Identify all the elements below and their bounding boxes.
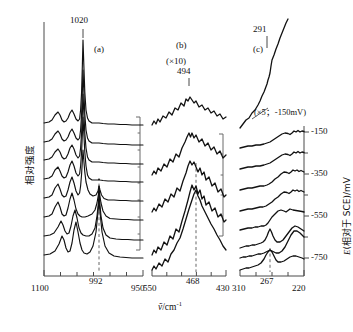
panel-b-label: (b) xyxy=(176,40,187,50)
panel-b-peak-bottom-label: 468 xyxy=(186,276,200,286)
panel-a-trace-5 xyxy=(44,150,143,201)
panel-c-trace-2 xyxy=(240,152,304,170)
x-axis-units: /cm xyxy=(162,302,176,312)
panel-c-peak-bottom-label: 267 xyxy=(260,276,274,286)
panel-c-peak-top-label: 291 xyxy=(253,24,267,34)
panel-c-xtick-right: 220 xyxy=(292,283,306,293)
panel-a-trace-7 xyxy=(44,190,143,240)
x-axis-units-exponent: -1 xyxy=(176,300,181,307)
panel-a-group xyxy=(44,22,143,276)
panel-b-trace-5 xyxy=(152,190,226,270)
panel-a-intensity-bracket xyxy=(136,117,140,250)
panel-a-peak-top-label: 1020 xyxy=(70,15,88,25)
panel-c-trace-4 xyxy=(240,190,304,211)
panel-b-xtick-left: 550 xyxy=(143,283,157,293)
panel-a-xtick-left: 1100 xyxy=(31,283,49,293)
panel-b-group xyxy=(152,78,226,276)
panel-b-scale-note: (×10) xyxy=(166,56,186,66)
panel-a-trace-3 xyxy=(44,94,143,164)
panel-b-trace-3 xyxy=(152,161,226,212)
potential-tick-label-4: -750 xyxy=(311,252,328,262)
panel-b-traces xyxy=(152,97,226,270)
y-axis-right-label: E(相对于 SCE)/mV xyxy=(340,177,353,255)
potential-tick-label-1: -150 xyxy=(311,126,328,136)
y-axis-right-symbol: E xyxy=(342,250,352,256)
panel-c-label: (c) xyxy=(253,44,263,54)
potential-tick-label-2: -350 xyxy=(311,168,328,178)
panel-a-trace-6 xyxy=(44,186,143,220)
panel-b-trace-1 xyxy=(152,97,226,125)
panel-c-group xyxy=(240,19,309,276)
panel-c-trace-6 xyxy=(240,226,304,248)
panel-c-xtick-left: 310 xyxy=(232,283,246,293)
y-axis-left-label: 相对强度 xyxy=(22,145,36,185)
panel-c-scale-note: (×5；-150mV) xyxy=(254,105,306,117)
potential-axis-ticks xyxy=(304,132,309,258)
panel-b-trace-2 xyxy=(152,133,226,175)
panel-b-peak-top-label: 494 xyxy=(177,66,191,76)
panel-b-intensity-bracket xyxy=(219,134,223,236)
panel-b-trace-4 xyxy=(152,185,226,255)
panel-a-traces xyxy=(44,40,143,258)
panel-a-trace-2 xyxy=(44,70,143,145)
x-axis-label: ṽ/cm-1 xyxy=(158,300,182,312)
potential-tick-label-3: -550 xyxy=(311,210,328,220)
panel-c-trace-3 xyxy=(240,170,304,190)
panel-a-peak-bottom-label: 992 xyxy=(89,276,103,286)
panel-a-trace-8 xyxy=(44,200,143,258)
panel-a-label: (a) xyxy=(94,44,104,54)
panel-c-trace-8 xyxy=(240,250,304,270)
panel-c-traces xyxy=(240,19,304,270)
panel-b-xtick-right: 430 xyxy=(216,283,230,293)
panel-c-trace-1 xyxy=(240,131,304,149)
y-axis-right-rest: (相对于 SCE)/mV xyxy=(342,177,352,250)
